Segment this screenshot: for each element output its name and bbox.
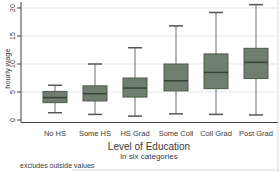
box-plot-chart: hourly wage 0 5 10 15 20 No HS Some HS H…	[0, 0, 279, 172]
chart-note: excludes outside values	[20, 162, 94, 170]
y-tick-label-15: 15	[6, 29, 20, 43]
y-tick-label-5: 5	[6, 85, 20, 99]
y-tick-label-20: 20	[6, 1, 20, 15]
box-5	[244, 48, 268, 78]
y-tick-label-0: 0	[6, 113, 20, 127]
box-3	[164, 64, 188, 91]
x-axis-subtitle: in six categories	[21, 152, 277, 161]
y-tick-label-10: 10	[6, 57, 20, 71]
box-4	[204, 54, 228, 89]
x-axis-title: Level of Education	[21, 141, 277, 152]
x-category-label-post-grad: Post Grad	[226, 130, 279, 138]
